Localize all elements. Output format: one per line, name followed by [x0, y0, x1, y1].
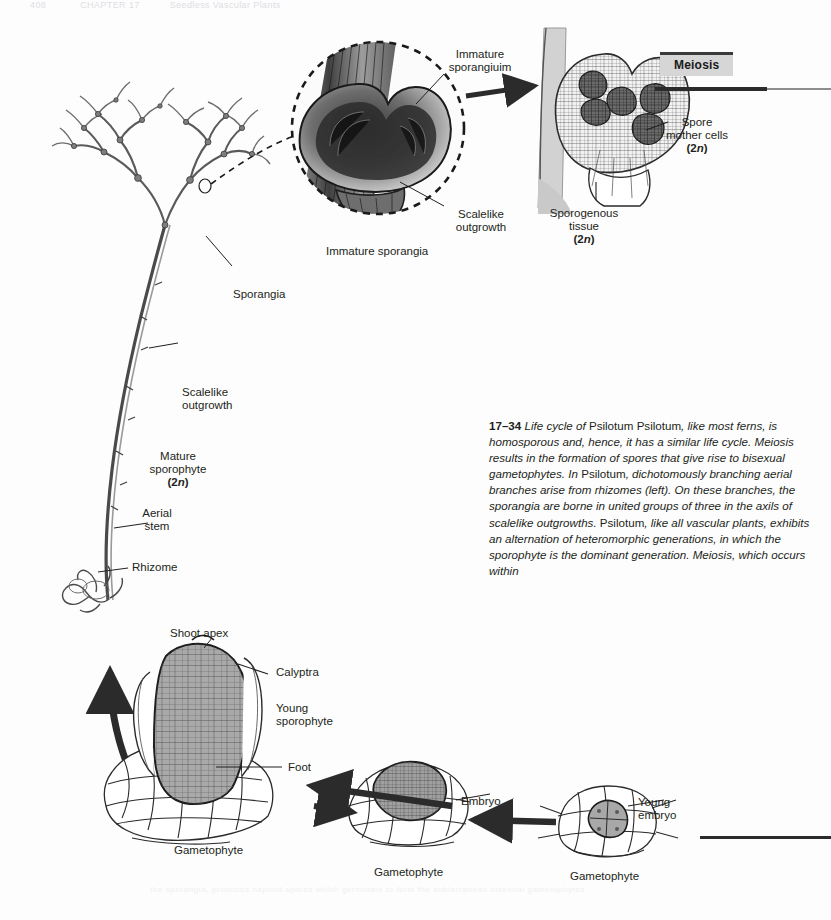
label-shoot-apex: Shoot apex [170, 627, 228, 640]
label-young-sporophyte: Young sporophyte [276, 702, 333, 728]
label-sporogenous-tissue-ploidy: (2n) [538, 233, 630, 246]
caption-body: Life cycle of Psilotum Psilotum, like mo… [489, 419, 809, 577]
label-mature-sporophyte-ploidy: (2n) [132, 476, 224, 489]
label-spore-mother-cells-ploidy: (2n) [655, 142, 739, 155]
label-immature-sporangium: Immature sporangiuim [432, 48, 528, 74]
leader-scalelike-outgrowth-stem [149, 343, 178, 348]
figure-page: 408CHAPTER 17Seedless Vascular Plants [0, 0, 831, 920]
page-bleed-through: the sporangia, produces haploid spores w… [150, 884, 790, 914]
label-young-embryo: Young embryo [638, 796, 676, 822]
label-spore-mother-cells: Spore mother cells [655, 116, 739, 142]
label-immature-sporangia: Immature sporangia [326, 245, 428, 258]
label-foot: Foot [288, 761, 311, 774]
label-gametophyte-middle: Gametophyte [374, 866, 443, 879]
magnification-marker [199, 179, 211, 193]
arrow-young-embryo-to-embryo [474, 820, 556, 822]
figure-caption: 17–34 Life cycle of Psilotum Psilotum, l… [489, 418, 814, 579]
leader-sporangia [206, 236, 232, 266]
label-scalelike-outgrowth-stem: Scalelike outgrowth [182, 386, 233, 412]
label-scalelike-outgrowth-inset: Scalelike outgrowth [442, 208, 520, 234]
label-sporangia: Sporangia [233, 288, 285, 301]
meiosis-tag: Meiosis [660, 52, 733, 76]
label-mature-sporophyte: Mature sporophyte [132, 450, 224, 476]
label-aerial-stem: Aerial stem [128, 507, 186, 533]
meiosis-rule-dark [655, 87, 767, 91]
arrow-inset-to-section [466, 86, 534, 96]
figure-number: 17–34 [489, 419, 521, 432]
label-calyptra: Calyptra [276, 666, 319, 679]
label-sporogenous-tissue: Sporogenous tissue [538, 207, 630, 233]
arrow-embryo-to-young-sporophyte-stub [314, 806, 352, 812]
label-gametophyte-left: Gametophyte [174, 844, 243, 857]
inset-tie-line [211, 136, 294, 184]
meiosis-rule-light [767, 88, 831, 90]
leader-rhizome [98, 568, 128, 572]
label-embryo: Embryo [461, 795, 501, 808]
cycle-arrow-shaft-right [700, 836, 831, 839]
label-gametophyte-right: Gametophyte [570, 870, 639, 883]
label-rhizome: Rhizome [132, 561, 177, 574]
